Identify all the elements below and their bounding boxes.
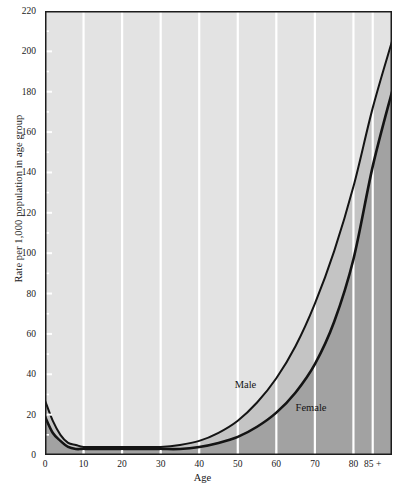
x-tick-label: 50 xyxy=(233,459,243,469)
x-axis-title: Age xyxy=(0,472,405,483)
x-tick-label: 85 + xyxy=(364,459,381,469)
x-tick-label: 80 xyxy=(349,459,359,469)
x-tick-label: 60 xyxy=(272,459,282,469)
x-tick-label: 70 xyxy=(310,459,320,469)
x-tick-label: 40 xyxy=(194,459,204,469)
x-tick-label: 20 xyxy=(117,459,127,469)
x-tick-label: 30 xyxy=(156,459,166,469)
x-tick-label: 10 xyxy=(79,459,89,469)
x-tick-label: 0 xyxy=(43,459,48,469)
